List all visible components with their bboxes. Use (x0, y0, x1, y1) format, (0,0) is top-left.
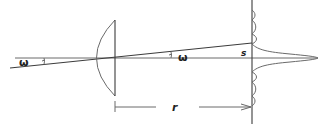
intensity-side-lobes-upper (252, 10, 257, 44)
angle-label-left: ω (19, 56, 29, 69)
intensity-side-lobes-lower (252, 72, 257, 106)
oblique-ray (10, 43, 252, 68)
spot-offset-label: s (241, 48, 247, 58)
angle-arc-left (44, 58, 45, 65)
angle-label-right: ω (178, 51, 188, 64)
diffraction-diagram: ω ω s r (0, 0, 336, 124)
distance-label: r (172, 101, 178, 114)
angle-arc-right (171, 52, 172, 58)
